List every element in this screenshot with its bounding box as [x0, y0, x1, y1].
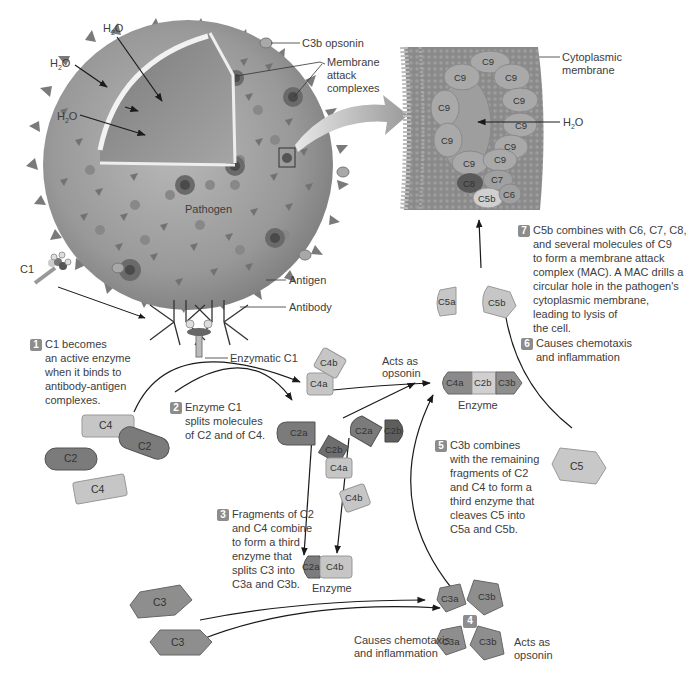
c4b-fragment-top: C4b	[320, 357, 337, 368]
water-label-left: H2O	[50, 57, 70, 74]
c7-unit: C7	[491, 174, 503, 185]
c1-label: C1	[20, 263, 34, 276]
c4a-fragment-top: C4a	[310, 378, 327, 389]
enzymatic-c1	[186, 320, 212, 357]
membrane-inset	[404, 47, 560, 210]
c9-unit: C9	[504, 141, 516, 152]
water-label-middle: H2O	[57, 110, 77, 127]
enzymatic-c1-callout: Enzymatic C1	[230, 352, 298, 365]
step-7: 7C5b combines with C6, C7, C8, and sever…	[518, 223, 686, 335]
c4b-fragment-mid: C4b	[345, 492, 362, 503]
cytoplasmic-membrane-callout: Cytoplasmic membrane	[562, 51, 622, 77]
c2a-fragment-left: C2a	[290, 427, 307, 438]
enzyme-c3-convertase-c4b: C4b	[326, 561, 343, 572]
c3-molecule-top: C3	[153, 596, 166, 608]
c9-unit: C9	[463, 158, 475, 169]
step-badge: 7	[518, 225, 530, 237]
mac-callout: Membrane attack complexes	[327, 56, 380, 95]
c9-unit: C9	[441, 135, 453, 146]
step-3: 3Fragments of C2 and C4 combine to form …	[217, 507, 314, 591]
c3b-opsonin-note: Acts as opsonin	[514, 636, 553, 662]
c1-molecule	[35, 252, 71, 283]
c9-unit: C9	[513, 95, 525, 106]
c2a-fragment-right: C2a	[355, 425, 372, 436]
c2-molecule-left: C2	[64, 452, 77, 464]
c9-unit: C9	[454, 72, 466, 83]
step-4-badge: 4	[464, 615, 476, 627]
step-5: 5C3b combines with the remaining fragmen…	[435, 438, 539, 536]
c9-unit: C9	[515, 120, 527, 131]
step-badge: 2	[170, 402, 182, 414]
c9-unit: C9	[505, 72, 517, 83]
step-badge: 1	[30, 339, 42, 351]
c5b-fragment: C5b	[488, 297, 505, 308]
antibody-callout: Antibody	[289, 301, 332, 314]
c3b-opsonin-callout: C3b opsonin	[302, 37, 364, 50]
enzyme-label-c5-convertase: Enzyme	[458, 399, 498, 412]
c9-unit: C9	[482, 56, 494, 67]
c2-molecule-right: C2	[138, 440, 151, 452]
c4-molecule-bottom: C4	[91, 483, 104, 495]
c8-unit: C8	[463, 178, 475, 189]
c2b-fragment-right: C2b	[384, 425, 401, 436]
step-6: 6Causes chemotaxis and inflammation	[521, 336, 632, 364]
c2b-fragment-mid: C2b	[325, 444, 342, 455]
pathogen-label: Pathogen	[185, 203, 232, 216]
c3b-fragment-top: C3b	[478, 591, 495, 602]
c3a-fragment-top: C3a	[441, 593, 458, 604]
enzyme-c5-convertase-c2b: C2b	[474, 377, 491, 388]
step-badge: 3	[217, 509, 229, 521]
step-badge: 6	[521, 338, 533, 350]
c5a-fragment: C5a	[438, 296, 455, 307]
c4-molecule-top: C4	[99, 419, 112, 431]
c5-molecule: C5	[570, 460, 583, 472]
step-2: 2Enzyme C1 splits molecules of C2 and of…	[170, 400, 265, 442]
water-label-top: H2O	[103, 22, 123, 39]
enzyme-label-c3-convertase: Enzyme	[312, 582, 352, 595]
enzyme-c5-convertase-c3b: C3b	[498, 377, 515, 388]
c4a-fragment-mid: C4a	[330, 462, 347, 473]
enzyme-c5-convertase-c4a: C4a	[446, 377, 463, 388]
c9-unit: C9	[438, 102, 450, 113]
inset-water-label: H2O	[563, 116, 583, 133]
c6-unit: C6	[503, 189, 515, 200]
c9-unit: C9	[494, 154, 506, 165]
step-badge: 5	[435, 440, 447, 452]
c5b-unit: C5b	[478, 193, 495, 204]
c3b-fragment-bottom: C3b	[479, 636, 496, 647]
c3-molecule-bottom: C3	[171, 636, 184, 648]
enzyme-c3-convertase-c2a: C2a	[302, 561, 319, 572]
c3a-effect-note: Causes chemotaxis and inflammation	[354, 634, 450, 660]
c4b-opsonin-note: Acts as opsonin	[382, 355, 421, 379]
step-1: 1C1 becomes an active enzyme when it bin…	[30, 337, 131, 407]
antigen-callout: Antigen	[289, 274, 326, 287]
